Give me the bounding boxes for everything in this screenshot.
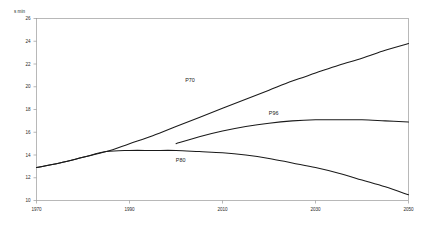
chart-background bbox=[0, 0, 427, 226]
y-tick-label: 18 bbox=[25, 107, 31, 112]
x-tick-label: 2030 bbox=[310, 207, 321, 212]
x-tick-label: 2010 bbox=[217, 207, 228, 212]
y-tick-label: 26 bbox=[25, 16, 31, 21]
y-tick-label: 22 bbox=[25, 62, 31, 67]
x-tick-label: 1970 bbox=[31, 207, 42, 212]
y-tick-label: 14 bbox=[25, 153, 31, 158]
series-label-p70: P70 bbox=[185, 77, 195, 83]
y-tick-label: 10 bbox=[25, 198, 31, 203]
y-tick-label: 24 bbox=[25, 39, 31, 44]
series-label-p80: P80 bbox=[176, 157, 186, 163]
y-tick-label: 20 bbox=[25, 84, 31, 89]
y-tick-label: 16 bbox=[25, 130, 31, 135]
chart-container: s min 101214161820222426 197019902010203… bbox=[0, 0, 427, 226]
y-tick-label: 12 bbox=[25, 175, 31, 180]
series-label-p96: P96 bbox=[269, 110, 279, 116]
y-axis-unit-label: s min bbox=[14, 9, 25, 14]
x-tick-label: 1990 bbox=[124, 207, 135, 212]
line-chart: s min 101214161820222426 197019902010203… bbox=[0, 0, 427, 226]
x-tick-label: 2050 bbox=[403, 207, 414, 212]
